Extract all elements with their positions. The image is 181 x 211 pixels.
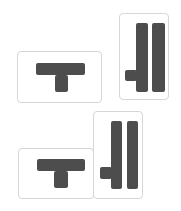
- shape-segment: [125, 70, 137, 81]
- shape-segment: [36, 63, 85, 75]
- shape-segment: [136, 23, 148, 92]
- shape-segment: [111, 121, 122, 189]
- double-bar-piece-card: [93, 111, 143, 199]
- shape-segment: [127, 121, 138, 189]
- t-piece-card: [17, 51, 102, 103]
- shape-segment: [37, 159, 85, 171]
- shape-segment: [54, 171, 68, 188]
- t-piece-card: [18, 148, 94, 199]
- shape-segment: [152, 23, 165, 92]
- shape-segment: [100, 167, 112, 179]
- shape-segment: [55, 75, 68, 92]
- double-bar-piece-card: [119, 13, 169, 100]
